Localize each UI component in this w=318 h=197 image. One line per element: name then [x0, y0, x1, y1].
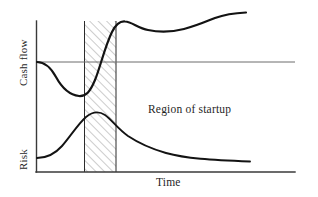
risk-curve	[37, 113, 250, 162]
annotation-region-of-startup: Region of startup	[148, 103, 231, 115]
startup-region-band	[85, 21, 117, 172]
plot-canvas	[0, 0, 318, 197]
y-axis-label-risk: Risk	[17, 149, 29, 170]
y-axis-label-cash-flow: Cash flow	[17, 39, 29, 86]
cash-flow-curve	[37, 13, 246, 97]
x-axis-label-time: Time	[156, 176, 181, 188]
figure-root: Cash flow Risk Region of startup Time	[0, 0, 318, 197]
